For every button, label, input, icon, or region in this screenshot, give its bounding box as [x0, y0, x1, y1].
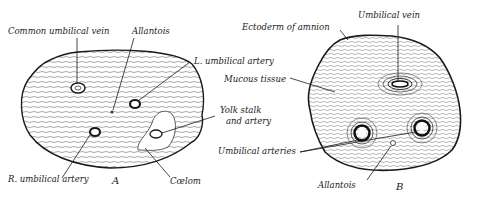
panel-b-letter: B	[396, 182, 403, 192]
panel-a-cord-section	[21, 38, 215, 178]
r-umbilical-artery-lumen	[90, 128, 100, 136]
label-common-umbilical-vein: Common umbilical vein	[8, 26, 109, 36]
yolk-stalk-lumen	[150, 130, 162, 138]
label-l-umbilical-artery: L. umbilical artery	[194, 56, 274, 66]
label-yolk-stalk-line2: and artery	[226, 116, 271, 126]
panel-b-outline	[308, 35, 460, 170]
allantois-a	[111, 111, 114, 114]
label-umbilical-vein: Umbilical vein	[358, 10, 420, 20]
l-umbilical-artery-lumen	[130, 100, 140, 108]
label-r-umbilical-artery: R. umbilical artery	[8, 174, 89, 184]
panel-a-letter: A	[112, 176, 119, 186]
panel-a-outline	[21, 50, 203, 168]
label-coelom: Cœlom	[170, 176, 201, 186]
label-yolk-stalk-line1: Yolk stalk	[220, 105, 261, 115]
label-ectoderm-of-amnion: Ectoderm of amnion	[242, 22, 330, 32]
allantois-b	[391, 141, 396, 146]
label-allantois-a: Allantois	[132, 26, 170, 36]
label-allantois-b: Allantois	[318, 180, 356, 190]
label-mucous-tissue: Mucous tissue	[224, 74, 286, 84]
panel-b-cord-section	[290, 25, 461, 180]
label-umbilical-arteries: Umbilical arteries	[218, 146, 296, 156]
